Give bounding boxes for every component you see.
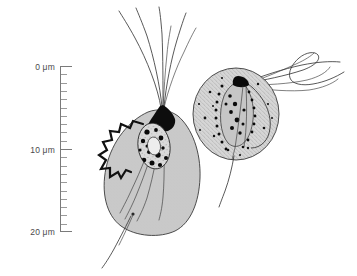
scale-label-20: 20 μm	[30, 227, 55, 237]
figure-root: 0 μm 10 μm 20 μm	[0, 0, 357, 276]
scale-label-10: 10 μm	[30, 145, 55, 155]
scale-label-0: 0 μm	[35, 62, 55, 72]
illustration-canvas: 0 μm 10 μm 20 μm	[0, 0, 357, 276]
